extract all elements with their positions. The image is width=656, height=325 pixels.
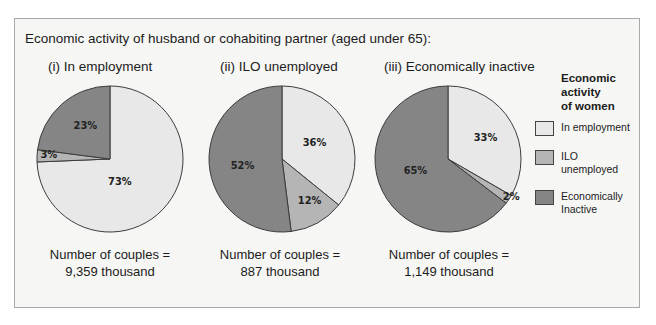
label-ilo-unemployed: 2% bbox=[503, 191, 520, 202]
legend-label-line: Economically bbox=[561, 190, 623, 203]
label-ilo-unemployed: 12% bbox=[298, 195, 322, 206]
couples-count: 887 thousand bbox=[190, 263, 370, 280]
legend-title: Economic activity of women bbox=[561, 71, 635, 113]
legend-label-line: Inactive bbox=[561, 203, 623, 216]
label-economically-inactive: 23% bbox=[74, 120, 98, 131]
legend-item-in-employment: In employment bbox=[535, 121, 635, 136]
pie-1-subtitle: (i) In employment bbox=[48, 59, 152, 74]
legend-swatch-light bbox=[535, 121, 554, 136]
pie-chart-in-employment: 73% 3% 23% bbox=[35, 83, 185, 235]
pie-3-subtitle: (iii) Economically inactive bbox=[384, 59, 535, 74]
pie-2-caption: Number of couples = 887 thousand bbox=[190, 246, 370, 280]
couples-count: 1,149 thousand bbox=[359, 263, 539, 280]
pie-chart-economically-inactive: 33% 2% 65% bbox=[373, 83, 523, 235]
caption-line: Number of couples = bbox=[20, 246, 200, 263]
pie-3-caption: Number of couples = 1,149 thousand bbox=[359, 246, 539, 280]
label-ilo-unemployed: 3% bbox=[40, 149, 57, 160]
label-in-employment: 33% bbox=[474, 132, 498, 143]
couples-count: 9,359 thousand bbox=[20, 263, 200, 280]
pie-2-subtitle: (ii) ILO unemployed bbox=[220, 59, 338, 74]
caption-line: Number of couples = bbox=[190, 246, 370, 263]
legend: Economic activity of women In employment… bbox=[535, 71, 635, 230]
legend-label: ILO unemployed bbox=[561, 150, 635, 176]
legend-label: In employment bbox=[561, 121, 630, 134]
pie-1-caption: Number of couples = 9,359 thousand bbox=[20, 246, 200, 280]
legend-title-line: of women bbox=[561, 99, 635, 113]
legend-item-economically-inactive: Economically Inactive bbox=[535, 190, 635, 216]
caption-line: Number of couples = bbox=[359, 246, 539, 263]
chart-title: Economic activity of husband or cohabiti… bbox=[25, 31, 431, 46]
legend-title-line: Economic bbox=[561, 71, 635, 85]
legend-swatch-dark bbox=[535, 190, 554, 205]
label-economically-inactive: 65% bbox=[404, 165, 428, 176]
legend-title-line: activity bbox=[561, 85, 635, 99]
legend-swatch-mid bbox=[535, 150, 554, 165]
legend-label: Economically Inactive bbox=[561, 190, 623, 216]
pie-chart-ilo-unemployed: 36% 12% 52% bbox=[207, 83, 357, 235]
label-economically-inactive: 52% bbox=[231, 160, 255, 171]
chart-panel: Economic activity of husband or cohabiti… bbox=[14, 18, 640, 308]
label-in-employment: 36% bbox=[303, 137, 327, 148]
legend-item-ilo-unemployed: ILO unemployed bbox=[535, 150, 635, 176]
label-in-employment: 73% bbox=[108, 176, 132, 187]
